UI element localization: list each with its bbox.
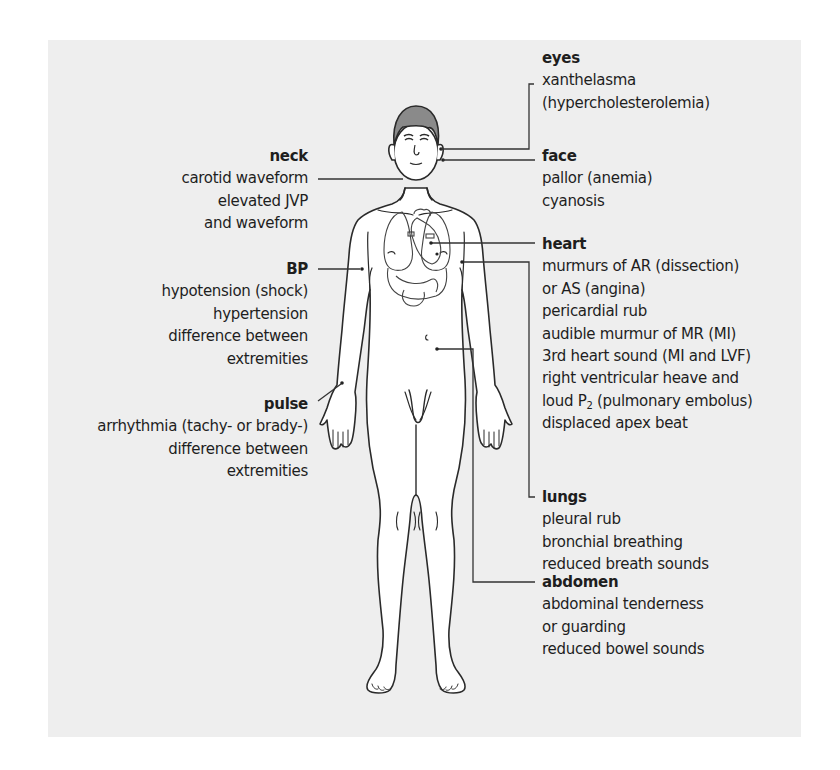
label-line: extremities bbox=[161, 348, 308, 370]
label-lungs: lungs pleural rub bronchial breathing re… bbox=[542, 486, 709, 576]
label-title: neck bbox=[181, 145, 308, 167]
label-eyes: eyes xanthelasma (hypercholesterolemia) bbox=[542, 47, 710, 114]
label-line: displaced apex beat bbox=[542, 412, 752, 434]
label-line: pallor (anemia) bbox=[542, 167, 652, 189]
label-line: difference between bbox=[161, 325, 308, 347]
label-line: cyanosis bbox=[542, 190, 652, 212]
label-line: or AS (angina) bbox=[542, 278, 752, 300]
label-line: extremities bbox=[97, 460, 308, 482]
label-face: face pallor (anemia) cyanosis bbox=[542, 145, 652, 212]
head bbox=[389, 106, 445, 180]
label-title: eyes bbox=[542, 47, 710, 69]
label-line: or guarding bbox=[542, 616, 704, 638]
label-line-p2: loud P2 (pulmonary embolus) bbox=[542, 390, 752, 412]
label-title: heart bbox=[542, 233, 752, 255]
label-line: elevated JVP bbox=[181, 190, 308, 212]
label-line: 3rd heart sound (MI and LVF) bbox=[542, 345, 752, 367]
label-title: abdomen bbox=[542, 571, 704, 593]
label-heart: heart murmurs of AR (dissection) or AS (… bbox=[542, 233, 752, 435]
label-line: and waveform bbox=[181, 212, 308, 234]
label-pulse: pulse arrhythmia (tachy- or brady-) diff… bbox=[97, 393, 308, 483]
label-line: xanthelasma bbox=[542, 69, 710, 91]
label-text: (pulmonary embolus) bbox=[592, 392, 752, 410]
label-bp: BP hypotension (shock) hypertension diff… bbox=[161, 258, 308, 370]
label-line: arrhythmia (tachy- or brady-) bbox=[97, 415, 308, 437]
label-text: loud P bbox=[542, 392, 586, 410]
label-line: pleural rub bbox=[542, 508, 709, 530]
label-line: (hypercholesterolemia) bbox=[542, 92, 710, 114]
label-title: pulse bbox=[97, 393, 308, 415]
label-line: murmurs of AR (dissection) bbox=[542, 255, 752, 277]
label-neck: neck carotid waveform elevated JVP and w… bbox=[181, 145, 308, 235]
label-abdomen: abdomen abdominal tenderness or guarding… bbox=[542, 571, 704, 661]
label-line: hypotension (shock) bbox=[161, 280, 308, 302]
label-title: BP bbox=[161, 258, 308, 280]
label-line: hypertension bbox=[161, 303, 308, 325]
label-line: carotid waveform bbox=[181, 167, 308, 189]
label-line: reduced bowel sounds bbox=[542, 638, 704, 660]
label-line: pericardial rub bbox=[542, 300, 752, 322]
label-line: difference between bbox=[97, 438, 308, 460]
label-line: abdominal tenderness bbox=[542, 593, 704, 615]
label-title: lungs bbox=[542, 486, 709, 508]
label-line: right ventricular heave and bbox=[542, 367, 752, 389]
label-title: face bbox=[542, 145, 652, 167]
eyes-connector bbox=[441, 84, 534, 149]
label-line: bronchial breathing bbox=[542, 531, 709, 553]
label-line: audible murmur of MR (MI) bbox=[542, 323, 752, 345]
